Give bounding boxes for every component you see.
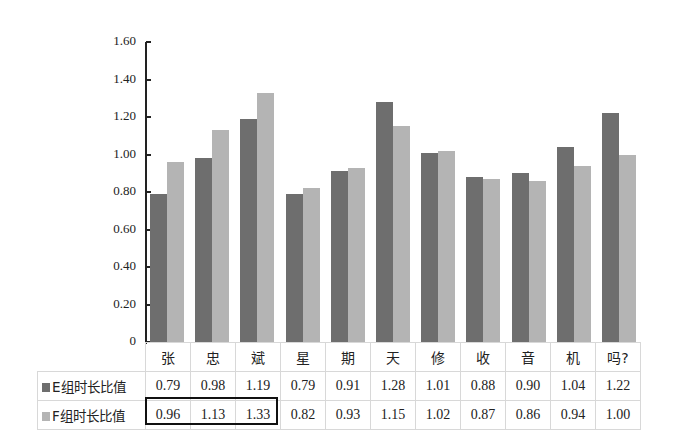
legend-entry-e: E组时长比值 (38, 372, 146, 401)
bar-e (512, 173, 529, 342)
table-cell: 1.01 (416, 372, 461, 401)
table-row-series-e: E组时长比值 0.790.981.190.790.911.281.010.880… (38, 372, 641, 401)
table-cell: 0.79 (146, 372, 191, 401)
bar-e (421, 153, 438, 342)
bar-f (438, 151, 455, 342)
category-label: 天 (371, 343, 416, 372)
table-cell: 0.91 (326, 372, 371, 401)
y-tick-label: 0.60 (96, 221, 136, 237)
bar-e (602, 113, 619, 342)
table-cell: 0.98 (191, 372, 236, 401)
table-cell: 0.96 (146, 401, 191, 430)
bar-f (212, 130, 229, 342)
category-label: 忠 (191, 343, 236, 372)
bar-f (348, 168, 365, 342)
table-cell: 1.15 (371, 401, 416, 430)
bar-e (376, 102, 393, 342)
category-label: 吗? (596, 343, 641, 372)
table-cell: 0.88 (461, 372, 506, 401)
y-tick-label: 0.20 (96, 296, 136, 312)
bar-e (195, 158, 212, 342)
bar-f (167, 162, 184, 342)
bar-e (466, 177, 483, 342)
y-tick-label: 1.40 (96, 71, 136, 87)
category-label: 期 (326, 343, 371, 372)
table-cell: 0.82 (281, 401, 326, 430)
table-cell: 1.00 (596, 401, 641, 430)
y-tick-label: 0.80 (96, 183, 136, 199)
data-table: 张忠斌星期天修收音机吗? E组时长比值 0.790.981.190.790.91… (37, 342, 641, 430)
table-cell: 0.86 (506, 401, 551, 430)
bar-e (557, 147, 574, 342)
bar-e (150, 194, 167, 342)
category-label: 张 (146, 343, 191, 372)
y-tick-label: 1.00 (96, 146, 136, 162)
bar-e (331, 171, 348, 342)
category-label: 机 (551, 343, 596, 372)
table-cell: 1.28 (371, 372, 416, 401)
bar-f (483, 179, 500, 342)
table-cell: 0.87 (461, 401, 506, 430)
y-tick-label: 1.60 (96, 33, 136, 49)
bar-f (393, 126, 410, 342)
bar-chart: 00.200.400.600.801.001.201.401.60 张忠斌星期天… (0, 0, 680, 443)
table-cell: 0.94 (551, 401, 596, 430)
y-axis-line (145, 42, 147, 344)
category-label: 斌 (236, 343, 281, 372)
legend-label: E组时长比值 (52, 379, 126, 395)
table-cell: 0.79 (281, 372, 326, 401)
bar-f (529, 181, 546, 342)
bar-f (257, 93, 274, 342)
category-label: 星 (281, 343, 326, 372)
category-row: 张忠斌星期天修收音机吗? (38, 343, 641, 372)
legend-swatch-icon (42, 383, 50, 392)
y-tick-label: 0.40 (96, 258, 136, 274)
legend-swatch-icon (42, 412, 50, 421)
legend-label: F组时长比值 (52, 408, 125, 424)
table-row-series-f: F组时长比值 0.961.131.330.820.931.151.020.870… (38, 401, 641, 430)
category-label: 音 (506, 343, 551, 372)
y-tick-label: 1.20 (96, 108, 136, 124)
bar-e (240, 119, 257, 342)
table-cell: 1.02 (416, 401, 461, 430)
category-label: 收 (461, 343, 506, 372)
table-cell: 1.04 (551, 372, 596, 401)
table-cell: 1.22 (596, 372, 641, 401)
bar-f (619, 155, 636, 343)
category-label: 修 (416, 343, 461, 372)
table-cell: 0.90 (506, 372, 551, 401)
bar-e (286, 194, 303, 342)
table-cell: 0.93 (326, 401, 371, 430)
table-cell: 1.33 (236, 401, 281, 430)
bar-f (303, 188, 320, 342)
table-cell: 1.13 (191, 401, 236, 430)
legend-entry-f: F组时长比值 (38, 401, 146, 430)
table-cell: 1.19 (236, 372, 281, 401)
table-corner (38, 343, 146, 372)
bar-f (574, 166, 591, 342)
